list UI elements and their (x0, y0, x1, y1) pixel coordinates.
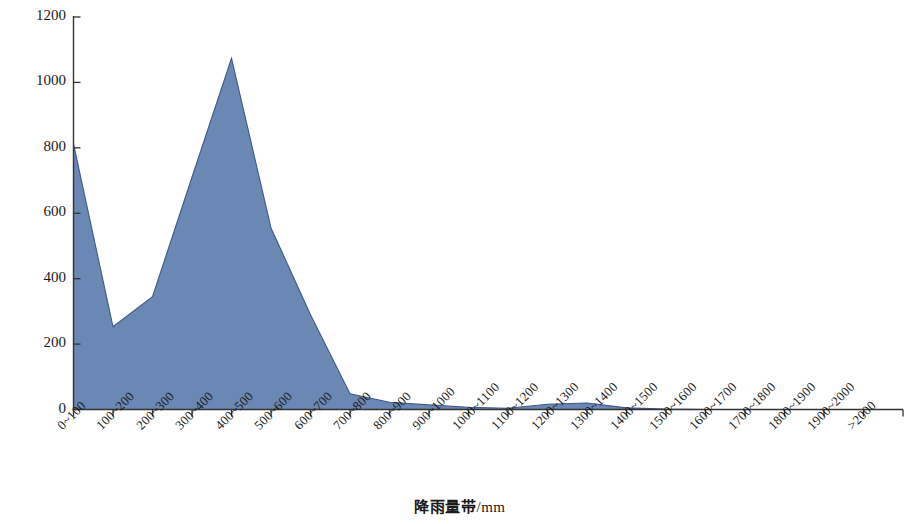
y-tick-label: 800 (22, 139, 66, 154)
x-axis-title-unit: /mm (476, 499, 505, 515)
y-tick-label: 600 (22, 204, 66, 219)
x-axis-title-main: 降雨量带 (414, 499, 476, 515)
y-tick-label: 400 (22, 270, 66, 285)
y-tick-label: 1000 (22, 73, 66, 88)
y-tick-label: 1200 (22, 8, 66, 23)
chart-figure: 分布面积/×104 hm2 020040060080010001200 0~10… (0, 0, 920, 524)
x-axis-title: 降雨量带/mm (0, 495, 920, 516)
y-tick-label: 0 (22, 401, 66, 416)
area-series-fill (74, 58, 864, 409)
plot-canvas (0, 0, 920, 524)
y-tick-label: 200 (22, 335, 66, 350)
